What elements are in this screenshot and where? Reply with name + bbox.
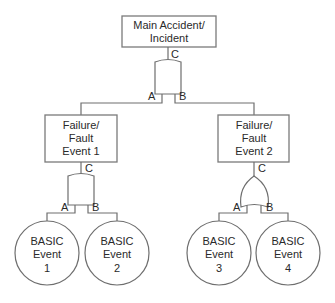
top-event-label-line1: Main Accident/ <box>133 19 205 31</box>
and-gate-icon <box>68 174 94 206</box>
gate-input-label-a: A <box>233 201 241 213</box>
failure-event-2-box: Failure/ Fault Event 2 <box>218 115 289 162</box>
top-event-box: Main Accident/ Incident <box>122 16 216 47</box>
failure-event-1-box: Failure/ Fault Event 1 <box>45 115 117 162</box>
basic-event-3: BASIC Event 3 <box>187 221 251 285</box>
gate-input-label-b: B <box>92 201 99 213</box>
basic-event-label-line3: 2 <box>114 262 120 274</box>
connector-line <box>175 94 254 115</box>
event-label-line3: Event 2 <box>235 145 272 157</box>
and-gate-icon <box>155 60 181 95</box>
basic-event-2: BASIC Event 2 <box>85 221 149 285</box>
basic-event-label-line1: BASIC <box>271 235 304 247</box>
basic-event-label-line2: Event <box>274 248 302 260</box>
basic-event-label-line1: BASIC <box>202 235 235 247</box>
gate-output-label: C <box>171 48 179 60</box>
gate-input-label-a: A <box>61 201 69 213</box>
top-event-label-line2: Incident <box>150 32 189 44</box>
event-label-line3: Event 1 <box>62 145 99 157</box>
gate-input-label-a: A <box>148 90 156 102</box>
or-gate-icon <box>241 176 269 207</box>
event-label-line1: Failure/ <box>63 119 101 131</box>
gate-input-label-b: B <box>266 201 273 213</box>
basic-event-label-line3: 4 <box>285 262 291 274</box>
event-label-line1: Failure/ <box>236 119 274 131</box>
gate-output-label: C <box>258 162 266 174</box>
basic-event-label-line3: 3 <box>216 262 222 274</box>
gate-output-label: C <box>85 162 93 174</box>
gate-input-label-b: B <box>179 90 186 102</box>
event-label-line2: Fault <box>69 132 93 144</box>
fault-tree-diagram: Main Accident/ Incident C A B Failure/ F… <box>0 0 335 303</box>
basic-event-1: BASIC Event 1 <box>15 221 79 285</box>
basic-event-label-line3: 1 <box>44 262 50 274</box>
event-label-line2: Fault <box>242 132 266 144</box>
basic-event-label-line1: BASIC <box>30 235 63 247</box>
basic-event-4: BASIC Event 4 <box>256 221 320 285</box>
basic-event-label-line2: Event <box>33 248 61 260</box>
basic-event-label-line2: Event <box>205 248 233 260</box>
basic-event-label-line1: BASIC <box>100 235 133 247</box>
basic-event-label-line2: Event <box>103 248 131 260</box>
